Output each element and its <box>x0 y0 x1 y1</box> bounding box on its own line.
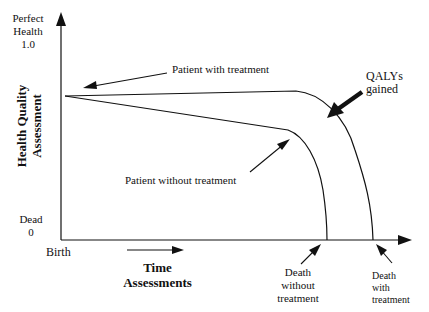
dead-label-text: Dead <box>14 213 48 226</box>
qalys-line2: gained <box>366 83 403 96</box>
death-with-line1: Death <box>372 270 428 282</box>
patient-without-treatment-label: Patient without treatment <box>125 174 236 187</box>
y-axis-title: Health Quality Assessment <box>14 71 46 181</box>
y-axis <box>56 12 66 240</box>
dead-label-value: 0 <box>14 226 48 239</box>
death-with-pointer-icon <box>376 244 392 263</box>
time-arrow-icon <box>127 246 184 254</box>
perfect-health-line1: Perfect <box>8 12 48 25</box>
death-with-treatment-label: Death with treatment <box>372 270 428 306</box>
perfect-health-label: Perfect Health 1.0 <box>8 12 48 51</box>
x-axis-title-line2: Assessments <box>115 275 200 290</box>
qalys-gained-label: QALYs gained <box>366 70 403 96</box>
death-with-line2: with <box>372 282 428 294</box>
y-axis-arrow-icon <box>56 12 66 26</box>
without-treatment-pointer-icon <box>250 139 290 172</box>
perfect-health-value: 1.0 <box>8 38 48 51</box>
qalys-gained-arrow-icon <box>327 92 362 118</box>
death-without-treatment-label: Death without treatment <box>268 266 328 305</box>
birth-label: Birth <box>46 246 71 259</box>
x-axis <box>61 235 412 245</box>
death-without-pointer-icon <box>301 244 321 264</box>
death-without-line3: treatment <box>268 292 328 305</box>
y-axis-title-line2: Assessment <box>29 71 44 181</box>
perfect-health-line2: Health <box>8 25 48 38</box>
death-with-line3: treatment <box>372 294 428 306</box>
x-axis-title-line1: Time <box>115 260 200 275</box>
death-without-line1: Death <box>268 266 328 279</box>
with-treatment-pointer-icon <box>83 73 167 89</box>
x-axis-title: Time Assessments <box>115 260 200 290</box>
death-without-line2: without <box>268 279 328 292</box>
curve-without-treatment <box>65 96 327 240</box>
patient-with-treatment-label: Patient with treatment <box>172 63 269 76</box>
x-axis-arrow-icon <box>398 235 412 245</box>
diagram-canvas <box>0 0 429 312</box>
y-axis-title-line1: Health Quality <box>14 71 29 181</box>
curve-with-treatment <box>65 91 373 240</box>
dead-label: Dead 0 <box>14 213 48 239</box>
